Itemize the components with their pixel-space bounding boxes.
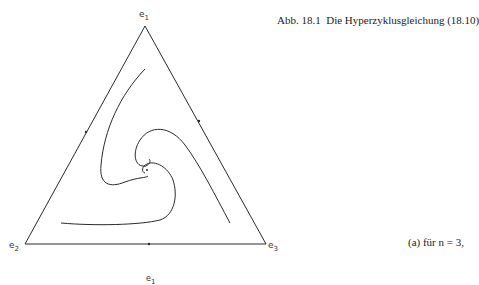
trajectory-3 (61, 163, 175, 225)
vertex-index: 3 (274, 245, 278, 253)
vertex-index: 2 (15, 245, 19, 253)
trajectory-1 (101, 69, 148, 185)
vertex-label-e3: e3 (268, 240, 278, 253)
figure-caption: Abb. 18.1 Die Hyperzyklusgleichung (18.1… (277, 14, 479, 26)
interior-fixed-point (146, 169, 148, 171)
subcaption: (a) für n = 3, (408, 236, 464, 248)
fixed-point-edge-12 (85, 131, 87, 133)
vertex-index: 1 (145, 14, 149, 22)
trajectory-2 (135, 129, 230, 223)
vertex-index: 1 (151, 278, 155, 285)
next-figure-vertex-label: e1 (146, 274, 155, 285)
simplex-triangle (25, 26, 266, 244)
vertex-label-e1: e1 (139, 9, 149, 22)
figure-label: Abb. 18.1 (277, 14, 321, 26)
figure-title: Die Hyperzyklusgleichung (18.10) (326, 14, 479, 26)
fixed-point-edge-13 (198, 120, 200, 122)
fixed-point-edge-23 (148, 243, 150, 245)
vertex-label-e2: e2 (9, 240, 19, 253)
